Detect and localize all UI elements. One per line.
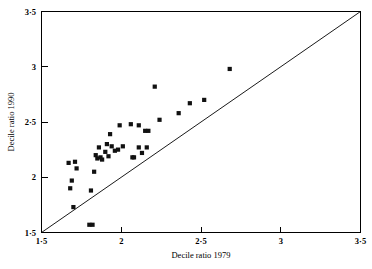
data-point	[118, 123, 122, 127]
y-axis-title: Decile ratio 1990	[6, 92, 16, 151]
data-point	[157, 118, 161, 122]
data-point	[92, 170, 96, 174]
data-point	[94, 153, 98, 157]
data-point	[121, 144, 125, 148]
data-point	[74, 166, 78, 170]
data-point	[105, 142, 109, 146]
x-axis-title: Decile ratio 1979	[171, 250, 230, 260]
data-point	[90, 223, 94, 227]
data-point	[177, 111, 181, 115]
y-tick-label-2: 2	[32, 172, 36, 182]
x-tick-label-1-5: 1·5	[36, 236, 47, 246]
y-tick-label-1-5: 1·5	[25, 228, 36, 238]
y-tick-label-3: 3	[32, 62, 36, 72]
x-tick-label-3: 3	[279, 236, 283, 246]
y-tick-label-2-5: 2·5	[25, 117, 36, 127]
data-point	[132, 155, 136, 159]
data-point	[89, 188, 93, 192]
plot-canvas: 3·5 3 2·5 2 1·5 1·5 2 2·5 3 3·5 Decile r…	[0, 0, 372, 269]
data-point	[188, 101, 192, 105]
data-point-series	[67, 67, 232, 227]
x-axis-tick-labels: 1·5 2 2·5 3 3·5	[36, 236, 366, 246]
data-point	[137, 123, 141, 127]
data-point	[110, 144, 114, 148]
data-point	[70, 178, 74, 182]
data-point	[73, 160, 77, 164]
y-axis-ticks	[42, 12, 48, 233]
identity-reference-line	[42, 12, 361, 233]
data-point	[228, 67, 232, 71]
data-point	[71, 205, 75, 209]
data-point	[97, 145, 101, 149]
y-tick-label-3-5: 3·5	[25, 7, 36, 17]
data-point	[153, 85, 157, 89]
data-point	[146, 129, 150, 133]
data-point	[202, 98, 206, 102]
data-point	[116, 148, 120, 152]
x-tick-label-3-5: 3·5	[355, 236, 366, 246]
data-point	[129, 122, 133, 126]
data-point	[106, 154, 110, 158]
scatter-plot-figure: 3·5 3 2·5 2 1·5 1·5 2 2·5 3 3·5 Decile r…	[0, 0, 372, 269]
data-point	[137, 145, 141, 149]
data-point	[103, 150, 107, 154]
x-tick-label-2: 2	[119, 236, 123, 246]
data-point	[100, 157, 104, 161]
y-axis-tick-labels: 3·5 3 2·5 2 1·5	[25, 7, 36, 238]
data-point	[68, 186, 72, 190]
data-point	[67, 161, 71, 165]
x-tick-label-2-5: 2·5	[195, 236, 206, 246]
x-axis-ticks	[42, 227, 361, 233]
data-point	[145, 145, 149, 149]
data-point	[108, 132, 112, 136]
data-point	[140, 151, 144, 155]
